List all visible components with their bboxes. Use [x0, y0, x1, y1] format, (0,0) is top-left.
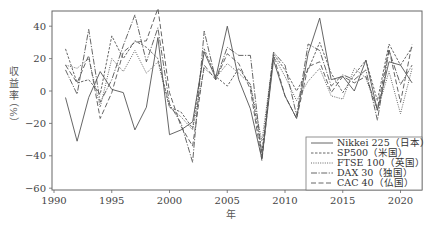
x-tick-label: 2005 [215, 195, 240, 206]
y-axis-ticks: −60−40−2002040 [25, 21, 52, 194]
y-tick-label: −40 [25, 150, 46, 161]
x-tick-label: 2010 [272, 195, 297, 206]
x-tick-label: 2000 [157, 195, 182, 206]
series-line-1 [66, 36, 413, 153]
y-tick-label: −20 [25, 118, 46, 129]
svg-text:収: 収 [9, 66, 19, 77]
legend-label: CAC 40（仏国） [337, 177, 414, 188]
svg-text:益: 益 [9, 77, 19, 89]
x-tick-label: 2015 [330, 195, 355, 206]
y-tick-label: 40 [33, 21, 46, 32]
y-tick-label: 0 [40, 86, 46, 97]
legend: Nikkei 225（日本）SP500（米国）FTSE 100（英国）DAX 3… [306, 137, 430, 190]
y-tick-label: −60 [25, 183, 46, 194]
line-chart: −60−40−2002040 1990199520002005201020152… [0, 0, 436, 230]
svg-text:（%）: （%） [8, 97, 19, 127]
x-tick-label: 2020 [388, 195, 413, 206]
x-axis-label: 年 [226, 208, 236, 220]
x-tick-label: 1995 [99, 195, 124, 206]
x-tick-label: 1990 [41, 195, 66, 206]
x-axis-ticks: 1990199520002005201020152020 [41, 190, 413, 206]
y-axis-label: 収 益 率 （%） [8, 66, 19, 127]
y-tick-label: 20 [33, 53, 46, 64]
